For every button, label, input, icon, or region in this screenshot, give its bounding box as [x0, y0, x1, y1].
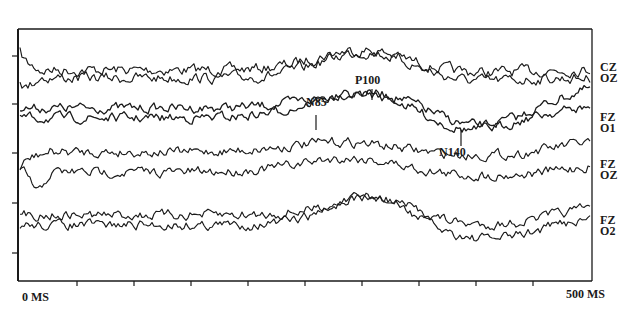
annotation-n140: N140 — [439, 145, 466, 160]
legend-pair-4: FZ O2 — [600, 215, 616, 237]
legend-pair-1: CZ OZ — [600, 62, 618, 84]
waveform-traces — [20, 48, 590, 242]
label-oz: OZ — [600, 170, 618, 181]
legend-pair-2: FZ O1 — [600, 112, 616, 134]
x-axis-start-label: 0 MS — [22, 290, 49, 305]
eeg-plot — [0, 0, 643, 325]
legend-pair-3: FZ OZ — [600, 159, 618, 181]
label-o1: O1 — [600, 123, 616, 134]
label-o2: O2 — [600, 226, 616, 237]
annotation-p100: P100 — [355, 73, 380, 88]
label-oz: OZ — [600, 73, 618, 84]
annotation-n85: N85 — [306, 95, 327, 110]
x-axis-end-label: 500 MS — [566, 287, 605, 302]
